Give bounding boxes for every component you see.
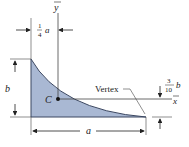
xc-numerator: 1 bbox=[38, 22, 42, 30]
vertex-leader bbox=[123, 89, 145, 114]
spandrel-diagram: y 1 4 a b C a Vertex 3 10 b x bbox=[0, 0, 189, 147]
width-label: a bbox=[86, 125, 91, 136]
xc-denominator: 4 bbox=[38, 31, 42, 39]
yc-denominator: 10 bbox=[165, 86, 173, 94]
centroid-label: C bbox=[45, 94, 52, 105]
y-bar-label: y bbox=[53, 2, 59, 13]
centroid-point bbox=[56, 97, 60, 101]
vertex-label: Vertex bbox=[95, 84, 119, 94]
x-bar-label: x bbox=[172, 96, 177, 106]
height-label: b bbox=[5, 83, 10, 94]
xc-variable: a bbox=[45, 25, 50, 35]
yc-numerator: 3 bbox=[167, 77, 171, 85]
spandrel-area bbox=[31, 59, 146, 117]
yc-variable: b bbox=[176, 80, 181, 90]
